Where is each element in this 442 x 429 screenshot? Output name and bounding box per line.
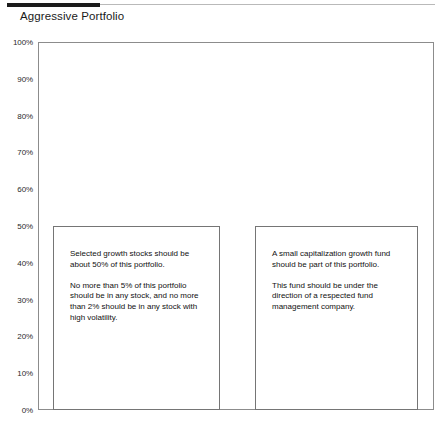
y-tick-label: 90% (17, 74, 33, 83)
y-axis: 100%90%80%70%60%50%40%30%20%10%0% (0, 0, 38, 429)
bar-annotation: Selected growth stocks should be about 5… (54, 227, 219, 323)
bar-chart: 100%90%80%70%60%50%40%30%20%10%0% Select… (0, 0, 442, 429)
y-tick-label: 70% (17, 148, 33, 157)
y-tick-label: 50% (17, 222, 33, 231)
y-tick-label: 30% (17, 295, 33, 304)
bar-annotation-paragraph: No more than 5% of this portfolio should… (70, 281, 211, 323)
bar-annotation: A small capitalization growth fund shoul… (256, 227, 417, 313)
bar[interactable]: A small capitalization growth fund shoul… (255, 226, 418, 410)
y-tick-label: 80% (17, 111, 33, 120)
y-tick-label: 60% (17, 185, 33, 194)
y-tick-label: 100% (13, 38, 33, 47)
y-tick-label: 20% (17, 332, 33, 341)
bars-layer: Selected growth stocks should be about 5… (38, 42, 434, 410)
bar[interactable]: Selected growth stocks should be about 5… (53, 226, 220, 410)
y-tick-label: 0% (22, 406, 33, 415)
y-tick-label: 40% (17, 258, 33, 267)
bar-annotation-paragraph: A small capitalization growth fund shoul… (272, 249, 409, 270)
y-tick-label: 10% (17, 369, 33, 378)
bar-annotation-paragraph: Selected growth stocks should be about 5… (70, 249, 211, 270)
bar-annotation-paragraph: This fund should be under the direction … (272, 281, 409, 313)
